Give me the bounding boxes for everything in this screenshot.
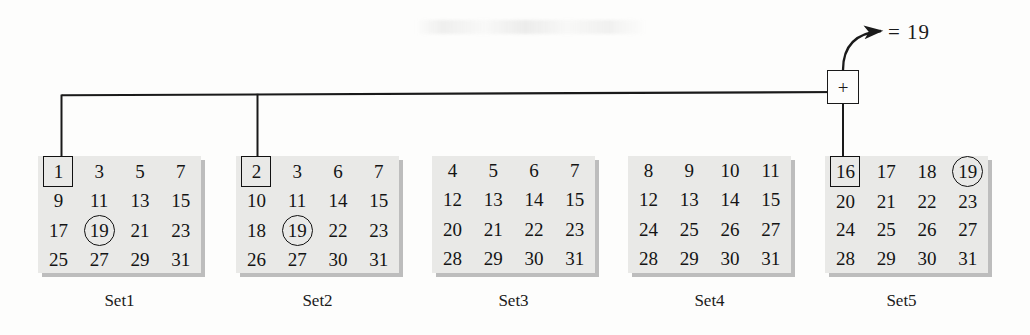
set-element: 25	[38, 246, 79, 274]
set-element: 22	[907, 187, 948, 216]
set-element: 23	[947, 187, 988, 216]
set-element-value: 16	[830, 156, 860, 187]
set-element-value: 23	[369, 221, 388, 240]
set-element-value: 15	[565, 190, 584, 209]
set-element: 26	[236, 246, 277, 274]
result-arrow	[843, 31, 881, 70]
set-element: 23	[554, 215, 595, 244]
set-element-value: 9	[684, 161, 694, 180]
set-element: 27	[947, 216, 988, 245]
set-element-value: 27	[288, 250, 307, 269]
set-element: 18	[236, 215, 277, 246]
scan-artifact	[415, 20, 645, 34]
set-element: 31	[554, 244, 595, 273]
set-element-value: 11	[761, 161, 779, 180]
set-panel: 891011121314152425262728293031	[628, 156, 791, 273]
set-element: 12	[432, 185, 473, 214]
set-element: 13	[669, 185, 710, 214]
set-element: 3	[79, 156, 120, 187]
set-element: 30	[907, 244, 948, 273]
set-panel: 4567121314152021222328293031	[432, 156, 595, 273]
set-element-value: 5	[135, 162, 145, 181]
set-element-value: 24	[836, 220, 855, 239]
set-element: 14	[318, 187, 359, 215]
set-key-element: 19	[277, 215, 318, 246]
set-element-value: 25	[877, 220, 896, 239]
set-number-grid: 891011121314152425262728293031	[628, 156, 791, 273]
set-element-value: 10	[720, 161, 739, 180]
set-element-value: 4	[448, 161, 458, 180]
set-caption: Set1	[38, 291, 201, 311]
set-number-grid: 4567121314152021222328293031	[432, 156, 595, 273]
set-element-value: 31	[565, 249, 584, 268]
set-element-value: 20	[836, 192, 855, 211]
set-first-element: 1	[38, 156, 79, 187]
set-element: 27	[277, 246, 318, 274]
set-element-value: 19	[952, 156, 983, 187]
set-element-value: 17	[877, 162, 896, 181]
set-element-value: 19	[84, 215, 115, 246]
set-first-element: 16	[825, 156, 866, 187]
set-element-value: 9	[54, 191, 64, 210]
set-element-value: 28	[836, 249, 855, 268]
set-element-value: 18	[247, 221, 266, 240]
set-element: 21	[866, 187, 907, 216]
set-panel: 16171819202122232425262728293031	[825, 156, 988, 273]
set-caption: Set5	[820, 291, 983, 311]
set-element: 31	[358, 246, 399, 274]
set-element-value: 13	[484, 190, 503, 209]
set-element-value: 13	[130, 191, 149, 210]
set-element-value: 6	[529, 161, 539, 180]
set-element: 21	[473, 215, 514, 244]
set-element-value: 28	[443, 249, 462, 268]
set-element-value: 15	[171, 191, 190, 210]
set-element: 15	[358, 187, 399, 215]
set-element: 14	[710, 185, 751, 214]
set-element: 23	[358, 215, 399, 246]
set-element-value: 7	[374, 162, 384, 181]
result-label: = 19	[888, 20, 930, 45]
set-element-value: 7	[570, 161, 580, 180]
set-key-element: 19	[947, 156, 988, 187]
set-element: 18	[907, 156, 948, 187]
set-caption: Set3	[432, 291, 595, 311]
set-element-value: 27	[958, 220, 977, 239]
set-element-value: 30	[720, 249, 739, 268]
set-element-value: 21	[877, 192, 896, 211]
set-element-value: 20	[443, 220, 462, 239]
set-element: 29	[473, 244, 514, 273]
set-element: 28	[825, 244, 866, 273]
set-element-value: 11	[288, 191, 306, 210]
set-element-value: 5	[488, 161, 498, 180]
set-element-value: 15	[369, 191, 388, 210]
set-element: 17	[38, 215, 79, 246]
set-panel: 2367101114151819222326273031	[236, 156, 399, 273]
set-element: 5	[120, 156, 161, 187]
set-element-value: 29	[877, 249, 896, 268]
set-element-value: 14	[328, 191, 347, 210]
set-element-value: 31	[369, 250, 388, 269]
set-panel: 135791113151719212325272931	[38, 156, 201, 273]
set-element: 10	[236, 187, 277, 215]
set-element: 17	[866, 156, 907, 187]
set-element: 22	[318, 215, 359, 246]
set-element: 24	[628, 215, 669, 244]
set-element: 30	[710, 244, 751, 273]
set-element: 15	[750, 185, 791, 214]
set-element-value: 31	[171, 250, 190, 269]
set-element-value: 8	[644, 161, 654, 180]
set-element-value: 22	[917, 192, 936, 211]
set-element-value: 15	[761, 190, 780, 209]
set-element: 11	[277, 187, 318, 215]
adder-node: +	[827, 70, 859, 104]
set-element: 29	[120, 246, 161, 274]
set-element-value: 13	[680, 190, 699, 209]
set-element: 5	[473, 156, 514, 185]
set-element-value: 2	[241, 156, 271, 187]
set-element: 12	[628, 185, 669, 214]
set-element: 29	[669, 244, 710, 273]
set-element: 26	[710, 215, 751, 244]
set-element: 20	[432, 215, 473, 244]
set-element: 6	[318, 156, 359, 187]
set-element-value: 18	[917, 162, 936, 181]
